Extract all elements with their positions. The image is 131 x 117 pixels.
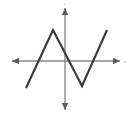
coordinate-plane-svg: x y xyxy=(0,0,131,117)
graph-figure: x y xyxy=(0,0,131,117)
